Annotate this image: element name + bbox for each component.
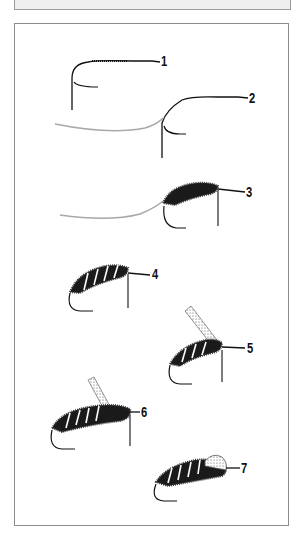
step-3-dubbed-body [60,183,218,228]
leader-line-5 [222,347,245,348]
step-label-7: 7 [241,461,247,475]
step-label-6: 6 [141,405,147,419]
step-label-4: 4 [152,267,158,281]
fly-tying-illustration [0,0,299,541]
step-2-hook-with-wire [55,97,238,158]
leader-line-2 [238,97,248,98]
step-5-strip-tied-in [169,306,222,384]
step-label-3: 3 [246,185,252,199]
step-1-hook [72,61,152,110]
leader-line-3 [218,189,245,192]
step-7-finished-fly [154,455,226,501]
step-label-1: 1 [161,54,167,68]
leader-line-4 [128,273,150,275]
leader-line-1 [152,61,160,62]
step-label-2: 2 [249,91,255,105]
step-6-thorax [51,377,130,449]
step-label-5: 5 [247,341,253,355]
step-4-ribbed-body [69,265,128,311]
